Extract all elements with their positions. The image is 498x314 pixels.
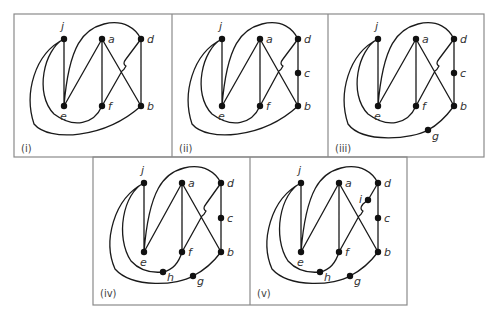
label-f: f <box>266 100 272 113</box>
label-f: f <box>422 100 428 113</box>
label-i: i <box>359 193 362 206</box>
node-e <box>61 103 67 109</box>
label-f: f <box>188 246 194 259</box>
node-f <box>99 103 105 109</box>
label-b: b <box>147 100 154 113</box>
node-a <box>413 36 419 42</box>
node-d <box>375 180 381 186</box>
node-j <box>375 36 381 42</box>
label-a: a <box>422 33 429 46</box>
node-e <box>375 103 381 109</box>
label-e: e <box>374 110 381 123</box>
node-j <box>141 180 147 186</box>
node-d <box>138 36 144 42</box>
node-i <box>365 197 371 203</box>
label-e: e <box>60 110 67 123</box>
label-c: c <box>227 212 233 225</box>
label-d: d <box>227 177 235 190</box>
node-h <box>160 269 166 275</box>
node-j <box>219 36 225 42</box>
node-h <box>317 269 323 275</box>
panel-i: j a d e f b (i) <box>21 20 155 154</box>
label-a: a <box>108 33 115 46</box>
label-b: b <box>304 100 311 113</box>
label-a: a <box>188 177 195 190</box>
panel-ii: j a d c e f b (ii) <box>179 20 312 154</box>
graph-figure: j a d e f b (i) j a d c e f b (ii) <box>0 0 498 314</box>
node-c <box>375 215 381 221</box>
node-a <box>257 36 263 42</box>
label-b: b <box>460 100 467 113</box>
node-g <box>425 127 431 133</box>
panel-label: (ii) <box>179 143 192 154</box>
node-f <box>413 103 419 109</box>
panel-label: (i) <box>21 143 32 154</box>
node-d <box>295 36 301 42</box>
node-a <box>336 180 342 186</box>
label-g: g <box>197 275 204 288</box>
node-d <box>451 36 457 42</box>
label-j: j <box>373 20 379 33</box>
node-b <box>375 249 381 255</box>
node-g <box>347 273 353 279</box>
label-d: d <box>147 33 155 46</box>
node-e <box>141 249 147 255</box>
label-g: g <box>354 275 361 288</box>
panel-label: (iii) <box>335 143 351 154</box>
label-b: b <box>384 246 391 259</box>
label-e: e <box>218 110 225 123</box>
label-e: e <box>297 256 304 269</box>
label-e: e <box>140 256 147 269</box>
label-j: j <box>296 164 302 177</box>
node-b <box>451 103 457 109</box>
label-j: j <box>139 164 145 177</box>
label-j: j <box>59 20 65 33</box>
label-h: h <box>167 271 174 284</box>
node-j <box>61 36 67 42</box>
node-c <box>295 70 301 76</box>
label-c: c <box>460 67 466 80</box>
label-a: a <box>345 177 352 190</box>
panel-iv: j a d c e f b h g (iv) <box>100 164 235 299</box>
panel-v: j a d i c e f b h g (v) <box>257 164 392 299</box>
label-d: d <box>304 33 312 46</box>
label-j: j <box>217 20 223 33</box>
node-f <box>179 249 185 255</box>
panel-label: (v) <box>257 288 271 299</box>
node-c <box>218 215 224 221</box>
node-b <box>295 103 301 109</box>
label-c: c <box>304 67 310 80</box>
label-g: g <box>432 130 439 143</box>
node-b <box>138 103 144 109</box>
node-e <box>298 249 304 255</box>
node-c <box>451 70 457 76</box>
node-a <box>99 36 105 42</box>
label-d: d <box>460 33 468 46</box>
panel-label: (iv) <box>100 288 117 299</box>
node-f <box>257 103 263 109</box>
node-a <box>179 180 185 186</box>
label-h: h <box>324 271 331 284</box>
node-b <box>218 249 224 255</box>
label-b: b <box>227 246 234 259</box>
label-f: f <box>345 246 351 259</box>
label-f: f <box>108 100 114 113</box>
node-j <box>298 180 304 186</box>
label-d: d <box>384 177 392 190</box>
node-g <box>190 273 196 279</box>
node-d <box>218 180 224 186</box>
node-f <box>336 249 342 255</box>
label-c: c <box>384 212 390 225</box>
panel-iii: j a d c e f b g (iii) <box>335 20 468 154</box>
label-a: a <box>266 33 273 46</box>
node-e <box>219 103 225 109</box>
